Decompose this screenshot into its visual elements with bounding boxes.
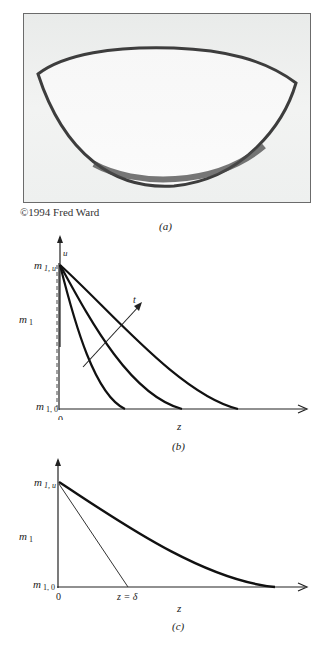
photo-credit: ©1994 Fred Ward: [20, 206, 99, 218]
panel-a-label: (a): [159, 220, 172, 232]
origin-label: 0: [56, 591, 61, 600]
panel-c-x-label: z: [177, 602, 181, 614]
lens-photograph: [23, 13, 311, 203]
y-top-label: m: [34, 259, 42, 271]
y-top-label: m: [34, 476, 42, 488]
y-bottom-label: m: [36, 400, 44, 412]
tangent-line: [59, 484, 128, 587]
y-bottom-label: m: [33, 578, 41, 590]
lens-shape: [24, 14, 311, 203]
curve-t1: [60, 265, 125, 409]
dashed-line-label: u: [63, 248, 68, 258]
y-axis-arrowhead: [55, 458, 61, 466]
concentration-profile-curve: [59, 482, 275, 587]
y-bottom-sub: 1, 0: [46, 405, 58, 414]
y-bottom-sub: 1, 0: [43, 583, 55, 592]
panel-b-chart: t u m 1, u m 1 m 1, 0 0: [0, 235, 333, 420]
tangent-intercept-sub: c: [143, 597, 147, 600]
y-top-sub: 1, u: [44, 264, 56, 273]
y-axis-label: m: [19, 313, 27, 325]
tangent-intercept-label: z = δ: [116, 591, 138, 600]
panel-b-x-label: z: [177, 420, 181, 432]
y-axis-label: m: [19, 530, 27, 542]
y-axis-label-sub: 1: [29, 535, 33, 544]
time-arrow-label: t: [133, 294, 136, 305]
origin-label: 0: [58, 414, 63, 420]
curve-t2: [60, 265, 182, 409]
curve-t3: [60, 265, 238, 409]
y-top-sub: 1, u: [44, 481, 56, 490]
panel-c-chart: m 1, u m 1 m 1, 0 0 z = δ c: [0, 440, 333, 600]
panel-c-label: (c): [172, 620, 184, 632]
y-axis-label-sub: 1: [29, 318, 33, 327]
y-axis-arrowhead: [57, 235, 63, 243]
